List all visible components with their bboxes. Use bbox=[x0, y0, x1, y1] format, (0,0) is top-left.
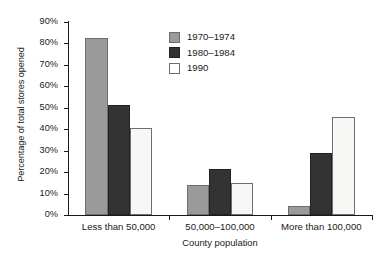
y-axis-tick-label: 70% bbox=[24, 59, 58, 69]
bar bbox=[85, 38, 107, 215]
y-axis-tick-label: 80% bbox=[24, 37, 58, 47]
legend-swatch-icon bbox=[169, 63, 180, 74]
y-axis-tick-label: 30% bbox=[24, 145, 58, 155]
bar bbox=[332, 117, 354, 215]
y-axis-tick-label: 0% bbox=[24, 209, 58, 219]
legend-item-label: 1970–1974 bbox=[187, 32, 235, 42]
x-axis-category-label: 50,000–100,000 bbox=[185, 221, 254, 232]
bar bbox=[108, 105, 130, 215]
bar bbox=[209, 169, 231, 215]
y-axis-tick: 30% bbox=[64, 151, 68, 152]
x-axis-title: County population bbox=[68, 237, 372, 248]
legend-swatch-icon bbox=[169, 47, 180, 58]
y-axis-tick-label: 10% bbox=[24, 188, 58, 198]
legend-item-label: 1980–1984 bbox=[187, 48, 235, 58]
legend-item: 1990 bbox=[169, 62, 235, 74]
y-axis-tick-label: 60% bbox=[24, 80, 58, 90]
y-axis-tick: 0% bbox=[64, 215, 68, 216]
y-axis-tick: 10% bbox=[64, 194, 68, 195]
x-axis-category-label: Less than 50,000 bbox=[82, 221, 156, 232]
y-axis-tick: 90% bbox=[64, 22, 68, 23]
x-axis-tick bbox=[372, 215, 373, 220]
chart-legend: 1970–19741980–19841990 bbox=[169, 31, 235, 74]
bar bbox=[187, 185, 209, 215]
y-axis-tick: 20% bbox=[64, 172, 68, 173]
y-axis-tick: 70% bbox=[64, 65, 68, 66]
legend-swatch-icon bbox=[169, 32, 180, 43]
bar-chart-figure: Percentage of total stores opened 0%10%2… bbox=[0, 0, 383, 260]
bar bbox=[130, 128, 152, 215]
x-axis-category-label: More than 100,000 bbox=[281, 221, 362, 232]
legend-item: 1980–1984 bbox=[169, 47, 235, 59]
y-axis-tick: 40% bbox=[64, 129, 68, 130]
y-axis-tick: 50% bbox=[64, 108, 68, 109]
x-axis-line bbox=[68, 215, 372, 216]
x-axis-tick bbox=[169, 215, 170, 220]
y-axis-tick-label: 90% bbox=[24, 16, 58, 26]
bar bbox=[288, 206, 310, 215]
y-axis-line bbox=[68, 21, 69, 216]
y-axis-tick-label: 20% bbox=[24, 166, 58, 176]
y-axis-tick-label: 40% bbox=[24, 123, 58, 133]
y-axis-tick: 80% bbox=[64, 43, 68, 44]
y-axis-tick-label: 50% bbox=[24, 102, 58, 112]
legend-item-label: 1990 bbox=[187, 63, 208, 73]
bar bbox=[310, 153, 332, 215]
y-axis-tick: 60% bbox=[64, 86, 68, 87]
legend-item: 1970–1974 bbox=[169, 31, 235, 43]
bar bbox=[231, 183, 253, 215]
x-axis-tick bbox=[271, 215, 272, 220]
